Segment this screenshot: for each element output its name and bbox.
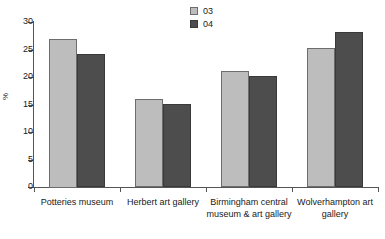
bar [77, 54, 105, 187]
category-label: Birmingham centralmuseum & art gallery [202, 196, 296, 220]
x-axis-tick [206, 187, 207, 192]
category-label-line: Potteries museum [30, 196, 124, 208]
y-axis-tick-label: 5 [9, 155, 33, 164]
y-axis-line [33, 21, 34, 188]
legend-item[interactable]: 03 [190, 6, 213, 16]
bar [249, 76, 277, 187]
legend-swatch-icon [190, 20, 198, 28]
x-axis-tick [292, 187, 293, 192]
y-axis-tick-label: 0 [9, 182, 33, 191]
category-label-line: gallery [288, 208, 382, 220]
category-label-line: Herbert art gallery [116, 196, 210, 208]
bar [307, 48, 335, 187]
y-axis-tick-label: 15 [9, 100, 33, 109]
x-axis-tick [378, 187, 379, 192]
legend-item-label: 03 [203, 7, 213, 16]
bar [335, 32, 363, 187]
y-axis-tick-label: 30 [9, 17, 33, 26]
bar [135, 99, 163, 187]
x-axis-tick [34, 187, 35, 192]
category-label-line: museum & art gallery [202, 208, 296, 220]
legend-swatch-icon [190, 7, 198, 15]
category-label: Wolverhampton artgallery [288, 196, 382, 220]
legend-item-label: 04 [203, 20, 213, 29]
legend: 03 04 [190, 6, 213, 29]
y-axis-ticks: 051015202530 [0, 0, 33, 239]
bar [49, 39, 77, 188]
y-axis-tick-label: 10 [9, 127, 33, 136]
legend-item[interactable]: 04 [190, 19, 213, 29]
category-label: Potteries museum [30, 196, 124, 208]
x-axis-tick [120, 187, 121, 192]
category-label-line: Wolverhampton art [288, 196, 382, 208]
y-axis-title: % [2, 93, 10, 100]
bar [163, 104, 191, 187]
y-axis-tick-label: 20 [9, 72, 33, 81]
bar-chart: 051015202530 % Potteries museumHerbert a… [0, 0, 385, 239]
category-label: Herbert art gallery [116, 196, 210, 208]
y-axis-tick-label: 25 [9, 45, 33, 54]
bar [221, 71, 249, 187]
category-label-line: Birmingham central [202, 196, 296, 208]
